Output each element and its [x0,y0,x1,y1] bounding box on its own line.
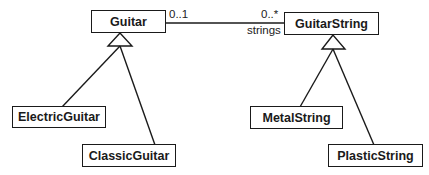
association-role-label: strings [247,25,281,37]
inheritance-line-classicguitar [120,46,155,145]
inheritance-line-plasticstring [333,49,374,145]
generalization-arrowhead-guitarstring [322,35,345,49]
class-name: GuitarString [295,17,368,31]
multiplicity-guitarstring-end: 0..* [261,9,278,21]
class-guitar[interactable]: Guitar [91,10,166,33]
class-metalstring[interactable]: MetalString [250,106,343,129]
class-classicguitar[interactable]: ClassicGuitar [82,144,176,167]
class-guitarstring[interactable]: GuitarString [284,12,379,35]
class-name: ElectricGuitar [18,110,100,124]
class-name: MetalString [262,111,330,125]
class-name: ClassicGuitar [89,149,170,163]
class-name: Guitar [110,15,147,29]
inheritance-line-metalstring [300,49,333,107]
generalization-arrowhead-guitar [108,33,132,46]
inheritance-line-electricguitar [62,46,120,107]
class-plasticstring[interactable]: PlasticString [328,144,423,167]
class-electricguitar[interactable]: ElectricGuitar [12,106,106,128]
multiplicity-guitar-end: 0..1 [169,9,188,21]
class-name: PlasticString [337,149,413,163]
uml-class-diagram: Guitar GuitarString ElectricGuitar Class… [0,0,429,175]
